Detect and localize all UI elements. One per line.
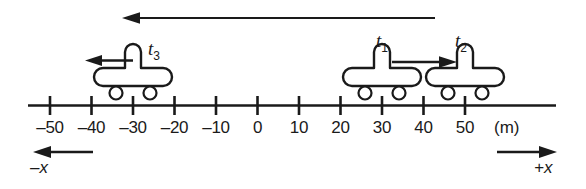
arrow-head-right	[439, 56, 457, 68]
tick-label-0: 0	[253, 118, 262, 138]
tick-label-minus-10: –10	[202, 118, 229, 138]
time-label-t2: t2	[455, 30, 467, 55]
time-label-t1-subscript: 1	[381, 41, 388, 55]
arrow-head-left	[85, 55, 102, 66]
tick-label-40: 40	[414, 118, 432, 138]
diagram-canvas	[0, 0, 586, 189]
return-trip-arrow	[122, 12, 435, 24]
axis-unit-label: (m)	[494, 118, 519, 138]
time-label-t3-subscript: 3	[153, 49, 160, 63]
motion-diagram-figure: –50 –40 –30 –20 –10 0 10 20 30 40 50 (m)…	[0, 0, 586, 189]
time-label-t1: t1	[376, 30, 388, 55]
time-label-t3: t3	[148, 38, 160, 63]
tick-label-10: 10	[290, 118, 308, 138]
tick-label-minus-20: –20	[161, 118, 188, 138]
cart-t3	[94, 44, 172, 100]
tick-label-20: 20	[331, 118, 349, 138]
arrow-head-left	[122, 12, 140, 24]
number-line-axis	[28, 96, 556, 115]
positive-x-label: +x	[534, 158, 552, 178]
negative-x-label: –x	[30, 158, 48, 178]
arrow-head-left	[33, 146, 51, 158]
tick-label-minus-50: –50	[36, 118, 63, 138]
tick-label-minus-30: –30	[119, 118, 146, 138]
cart-t1-velocity-arrow	[392, 56, 457, 68]
positive-x-arrow	[497, 146, 557, 158]
arrow-head-right	[539, 146, 557, 158]
tick-label-50: 50	[456, 118, 474, 138]
negative-x-arrow	[33, 146, 93, 158]
time-label-t2-subscript: 2	[460, 41, 467, 55]
tick-label-30: 30	[373, 118, 391, 138]
tick-label-minus-40: –40	[78, 118, 105, 138]
